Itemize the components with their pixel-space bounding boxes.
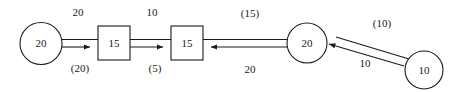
node-n1: 20 [20, 23, 62, 65]
node-n4-label: 20 [302, 37, 314, 49]
node-n2: 15 [98, 26, 130, 60]
edge-n4-n3-below-label: 20 [245, 63, 257, 75]
edge-n5-n4-above-label: (10) [373, 17, 392, 30]
node-n1-label: 20 [36, 37, 48, 49]
node-n3: 15 [171, 26, 203, 60]
edge-n5-n4-line-upper [336, 37, 409, 59]
node-n5: 10 [405, 51, 443, 89]
node-n3-label: 15 [182, 37, 194, 49]
node-n5-label: 10 [419, 64, 431, 76]
edge-n2-n3 [130, 40, 171, 48]
edge-n4-n3 [203, 40, 287, 48]
edge-n1-n2-below-label: (20) [71, 62, 90, 75]
node-n4: 20 [287, 23, 327, 63]
edge-n2-n3-below-label: (5) [149, 62, 162, 75]
edge-n1-n2-above-label: 20 [73, 6, 85, 18]
edge-n4-n3-above-label: (15) [241, 7, 260, 20]
node-n2-label: 15 [109, 37, 121, 49]
network-flow-diagram: 20 15 15 20 10 20 (20) 10 (5) (15) 20 (1… [0, 0, 455, 92]
edge-n1-n2 [62, 40, 98, 48]
diagram-canvas: 20 15 15 20 10 20 (20) 10 (5) (15) 20 (1… [0, 0, 455, 92]
edge-n5-n4-below-label: 10 [360, 57, 372, 69]
edge-n2-n3-above-label: 10 [147, 6, 159, 18]
